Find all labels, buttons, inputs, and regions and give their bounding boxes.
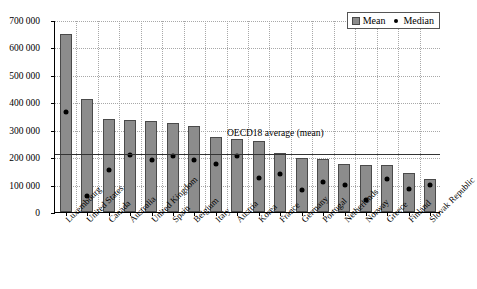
y-tick-label: 500 000: [0, 71, 40, 81]
gridline-vertical: [162, 21, 163, 212]
y-tick-mark: [51, 186, 55, 187]
median-marker: [428, 182, 433, 187]
median-marker: [256, 176, 261, 181]
median-dot-icon: [394, 19, 398, 23]
oecd18-average-line: [55, 154, 440, 155]
median-marker: [342, 183, 347, 188]
legend-label-mean: Mean: [363, 15, 386, 26]
bar: [231, 139, 243, 213]
chart-legend: Mean Median: [347, 12, 440, 29]
oecd18-average-label: OECD18 average (mean): [227, 128, 324, 138]
gridline-vertical: [98, 21, 99, 212]
y-tick-mark: [51, 21, 55, 22]
y-tick-mark: [51, 158, 55, 159]
median-marker: [299, 187, 304, 192]
plot-area: 0100 000200 000300 000400 000500 000600 …: [54, 21, 440, 213]
legend-entry-mean: Mean: [352, 15, 386, 26]
gridline-vertical: [312, 21, 313, 212]
median-marker: [385, 176, 390, 181]
gridline-vertical: [205, 21, 206, 212]
gridline-vertical: [227, 21, 228, 212]
gridline-vertical: [248, 21, 249, 212]
legend-label-median: Median: [403, 15, 434, 26]
median-marker: [106, 168, 111, 173]
y-tick-mark: [51, 103, 55, 104]
gridline-vertical: [76, 21, 77, 212]
y-tick-mark: [51, 76, 55, 77]
median-marker: [278, 172, 283, 177]
gridline-vertical: [355, 21, 356, 212]
y-tick-label: 200 000: [0, 154, 40, 164]
gridline-vertical: [269, 21, 270, 212]
y-tick-label: 100 000: [0, 181, 40, 191]
gridline-vertical: [377, 21, 378, 212]
bar: [60, 34, 72, 212]
y-tick-mark: [51, 131, 55, 132]
legend-entry-median: Median: [392, 15, 434, 26]
y-tick-label: 300 000: [0, 126, 40, 136]
bar: [188, 126, 200, 212]
y-tick-label: 0: [0, 209, 40, 219]
bar: [274, 153, 286, 212]
y-tick-label: 600 000: [0, 44, 40, 54]
median-marker: [192, 158, 197, 163]
gridline-vertical: [291, 21, 292, 212]
gridline-vertical: [334, 21, 335, 212]
median-marker: [321, 179, 326, 184]
median-marker: [63, 109, 68, 114]
median-marker: [213, 162, 218, 167]
y-tick-label: 400 000: [0, 99, 40, 109]
y-tick-label: 700 000: [0, 17, 40, 27]
median-marker: [149, 158, 154, 163]
y-tick-mark: [51, 213, 55, 214]
gridline-vertical: [398, 21, 399, 212]
median-marker: [406, 187, 411, 192]
gridline-vertical: [420, 21, 421, 212]
y-tick-mark: [51, 48, 55, 49]
gridline-vertical: [141, 21, 142, 212]
mean-swatch-icon: [352, 17, 360, 25]
